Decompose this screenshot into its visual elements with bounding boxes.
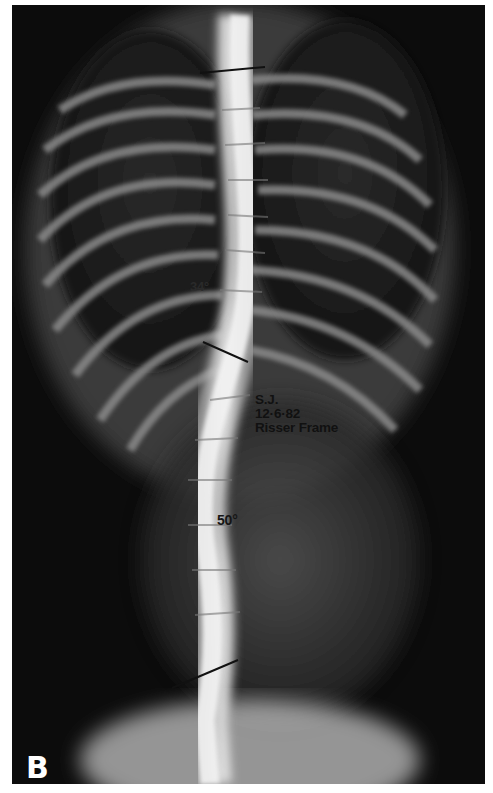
lower-cobb-angle-label: 50°: [217, 512, 238, 528]
upper-cobb-angle-label: 34°: [190, 279, 209, 294]
patient-initials: S.J.: [255, 393, 338, 407]
exam-date: 12·6·82: [255, 407, 338, 421]
radiograph-illustration: [12, 5, 485, 784]
panel-label: B: [26, 750, 49, 784]
xray-image: 34° 50° S.J. 12·6·82 Risser Frame B: [12, 5, 485, 784]
patient-info-label: S.J. 12·6·82 Risser Frame: [255, 393, 338, 435]
frame-note: Risser Frame: [255, 421, 338, 435]
